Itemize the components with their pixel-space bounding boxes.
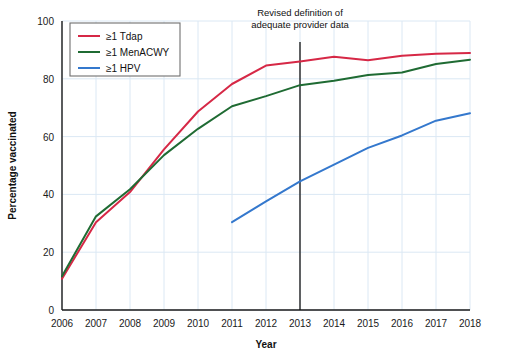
y-tick-label: 0 bbox=[48, 305, 54, 316]
x-tick-label: 2012 bbox=[255, 318, 278, 329]
x-tick-label: 2010 bbox=[187, 318, 210, 329]
legend-label-2: ≥1 MenACWY bbox=[106, 47, 170, 58]
legend-label-3: ≥1 HPV bbox=[106, 63, 141, 74]
legend-label-1: ≥1 Tdap bbox=[106, 31, 143, 42]
revised-definition-note-line-1: Revised definition of bbox=[257, 7, 343, 18]
x-axis-title: Year bbox=[255, 339, 276, 350]
x-tick-label: 2009 bbox=[153, 318, 176, 329]
y-tick-label: 40 bbox=[43, 189, 55, 200]
x-tick-label: 2015 bbox=[357, 318, 380, 329]
y-axis-title: Percentage vaccinated bbox=[7, 111, 18, 219]
y-tick-label: 80 bbox=[43, 74, 55, 85]
vaccination-coverage-chart: 0204060801002006200720082009201020112012… bbox=[0, 0, 507, 356]
series-line-3 bbox=[232, 113, 470, 222]
x-tick-label: 2007 bbox=[85, 318, 108, 329]
x-tick-label: 2017 bbox=[425, 318, 448, 329]
x-tick-label: 2018 bbox=[459, 318, 482, 329]
x-tick-label: 2013 bbox=[289, 318, 312, 329]
chart-canvas: 0204060801002006200720082009201020112012… bbox=[0, 0, 507, 356]
y-tick-label: 100 bbox=[37, 16, 54, 27]
x-tick-label: 2008 bbox=[119, 318, 142, 329]
revised-definition-note-line-2: adequate provider data bbox=[251, 19, 349, 30]
y-tick-label: 60 bbox=[43, 132, 55, 143]
x-tick-label: 2016 bbox=[391, 318, 414, 329]
y-tick-label: 20 bbox=[43, 247, 55, 258]
x-tick-label: 2014 bbox=[323, 318, 346, 329]
x-tick-label: 2011 bbox=[221, 318, 243, 329]
x-tick-label: 2006 bbox=[51, 318, 74, 329]
